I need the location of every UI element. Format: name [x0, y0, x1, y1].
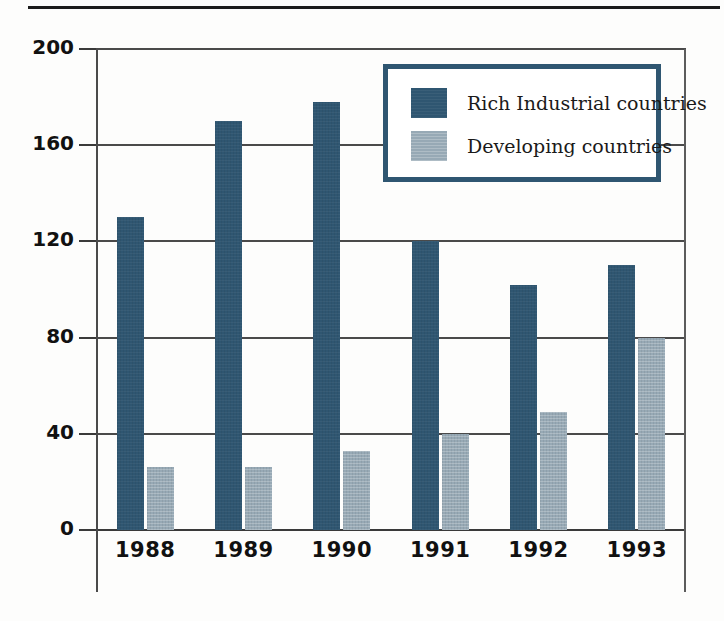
bar-1993-series-1 — [608, 265, 635, 530]
x-tick-label-1991: 1991 — [391, 538, 489, 562]
x-tick-label-1990: 1990 — [293, 538, 391, 562]
bar-1988-series-2 — [147, 467, 174, 530]
x-tick-label-1989: 1989 — [194, 538, 292, 562]
legend-label-developing-countries: Developing countries — [467, 135, 672, 157]
legend-swatch-rich-industrial-countries — [411, 88, 447, 118]
legend-swatch-developing-countries — [411, 131, 447, 161]
bar-chart-figure: 04080120160200 198819891990199119921993 … — [0, 0, 724, 621]
bar-1989-series-1 — [215, 121, 242, 530]
bar-1992-series-1 — [510, 285, 537, 530]
legend-item-rich-industrial-countries: Rich Industrial countries — [411, 86, 707, 120]
bar-1990-series-2 — [343, 451, 370, 530]
y-tickmark-200 — [79, 48, 97, 50]
y-tick-label-160: 160 — [0, 131, 74, 155]
chart-legend-inner: Rich Industrial countries Developing cou… — [391, 72, 653, 174]
y-tickmark-80 — [79, 337, 97, 339]
bar-1988-series-1 — [117, 217, 144, 530]
x-tick-label-1993: 1993 — [588, 538, 686, 562]
y-tickmark-0 — [79, 529, 97, 531]
y-tick-label-0: 0 — [0, 516, 74, 540]
page-background: 04080120160200 198819891990199119921993 … — [0, 0, 724, 621]
bar-1991-series-1 — [412, 241, 439, 530]
y-tick-label-40: 40 — [0, 420, 74, 444]
bar-1989-series-2 — [245, 467, 272, 530]
y-tick-label-200: 200 — [0, 35, 74, 59]
y-tickmark-120 — [79, 240, 97, 242]
chart-legend: Rich Industrial countries Developing cou… — [383, 64, 661, 182]
x-axis-tick-labels: 198819891990199119921993 — [96, 538, 686, 572]
y-tick-label-120: 120 — [0, 227, 74, 251]
y-tickmark-160 — [79, 144, 97, 146]
bar-1993-series-2 — [638, 338, 665, 530]
bar-1990-series-1 — [313, 102, 340, 530]
legend-label-rich-industrial-countries: Rich Industrial countries — [467, 92, 707, 114]
x-tick-label-1992: 1992 — [489, 538, 587, 562]
bar-1992-series-2 — [540, 412, 567, 530]
bar-1991-series-2 — [442, 434, 469, 530]
y-tickmark-40 — [79, 433, 97, 435]
legend-item-developing-countries: Developing countries — [411, 129, 672, 163]
x-tick-label-1988: 1988 — [96, 538, 194, 562]
y-tick-label-80: 80 — [0, 324, 74, 348]
